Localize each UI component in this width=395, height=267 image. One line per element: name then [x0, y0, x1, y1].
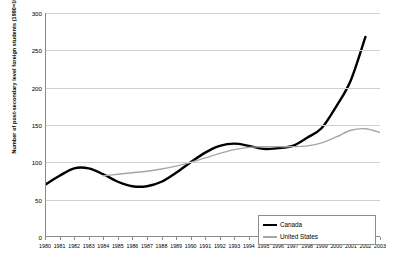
x-tick-label: 1987 — [141, 243, 153, 249]
y-tick-label: 250 — [20, 47, 42, 54]
y-axis-line — [45, 13, 46, 237]
series-line-canada — [45, 37, 365, 187]
x-tick-label: 1994 — [243, 243, 255, 249]
y-tick-label: 100 — [20, 159, 42, 166]
chart-container: Number of post-secondary level foreign s… — [0, 0, 395, 267]
gridline — [45, 88, 380, 89]
y-tick-label: 150 — [20, 122, 42, 129]
x-tick-mark — [118, 237, 119, 240]
legend-label-canada: Canada — [280, 222, 302, 228]
x-tick-mark — [45, 237, 46, 240]
x-tick-label: 1988 — [156, 243, 168, 249]
x-tick-label: 1983 — [83, 243, 95, 249]
legend-swatch-united-states — [263, 236, 277, 237]
y-axis-tick-labels: 050100150200250300 — [12, 0, 42, 267]
x-tick-mark — [176, 237, 177, 240]
gridline — [45, 200, 380, 201]
x-tick-label: 1985 — [112, 243, 124, 249]
plot-area — [45, 13, 380, 237]
legend-item-canada: Canada — [263, 219, 371, 231]
x-tick-mark — [132, 237, 133, 240]
series-line-united-states — [103, 129, 380, 176]
x-tick-label: 1991 — [199, 243, 211, 249]
x-tick-mark — [191, 237, 192, 240]
x-tick-label: 1981 — [54, 243, 66, 249]
x-tick-label: 1984 — [97, 243, 109, 249]
x-tick-mark — [162, 237, 163, 240]
x-tick-mark — [234, 237, 235, 240]
x-tick-mark — [89, 237, 90, 240]
x-tick-label: 1993 — [228, 243, 240, 249]
gridline — [45, 125, 380, 126]
y-tick-label: 300 — [20, 10, 42, 17]
x-tick-label: 1990 — [185, 243, 197, 249]
y-tick-label: 200 — [20, 84, 42, 91]
x-tick-mark — [60, 237, 61, 240]
x-tick-mark — [74, 237, 75, 240]
y-tick-label: 50 — [20, 196, 42, 203]
chart-legend: Canada United States — [258, 215, 376, 245]
x-tick-mark — [103, 237, 104, 240]
x-tick-mark — [380, 237, 381, 240]
x-tick-label: 1989 — [170, 243, 182, 249]
gridline — [45, 50, 380, 51]
gridline — [45, 162, 380, 163]
x-tick-mark — [205, 237, 206, 240]
x-tick-mark — [220, 237, 221, 240]
x-tick-label: 1986 — [126, 243, 138, 249]
legend-swatch-canada — [263, 224, 277, 226]
x-tick-label: 1992 — [214, 243, 226, 249]
legend-item-united-states: United States — [263, 231, 371, 243]
x-tick-mark — [147, 237, 148, 240]
gridline — [45, 13, 380, 14]
x-tick-mark — [249, 237, 250, 240]
x-tick-label: 1980 — [39, 243, 51, 249]
x-tick-label: 1982 — [68, 243, 80, 249]
legend-label-united-states: United States — [280, 234, 318, 240]
y-tick-label: 0 — [20, 234, 42, 241]
